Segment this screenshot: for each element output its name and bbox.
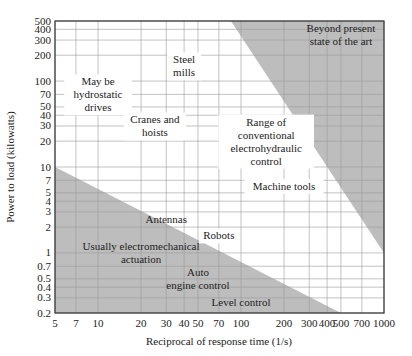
x-tick-label: 70 [213,317,225,329]
y-tick-label: 0.2 [37,307,51,319]
robots-label: Robots [203,229,234,241]
x-tick-label: 200 [276,317,293,329]
x-tick-label: 500 [333,317,350,329]
machine-tools-label: Machine tools [253,180,316,192]
level-control-label: Level control [212,296,271,308]
x-tick-label: 40 [179,317,191,329]
y-tick-label: 10 [40,161,52,173]
y-axis-ticks: 0.20.30.40.50.71234571020304050701002003… [35,15,52,319]
y-tick-label: 100 [35,75,52,87]
y-tick-label: 0.3 [37,291,51,303]
x-tick-label: 10 [93,317,105,329]
y-axis-label: Power to load (kilowatts) [4,111,17,223]
y-tick-label: 0.5 [37,272,51,284]
y-tick-label: 1 [46,246,52,258]
steel-mills-label: Steelmills [173,53,195,78]
beyond-state-of-art-label: Beyond presentstate of the art [307,22,376,47]
y-tick-label: 2 [46,221,52,233]
y-tick-label: 3 [46,205,52,217]
chart: SteelmillsMay behydrostaticdrivesCranes … [0,0,412,356]
x-tick-label: 30 [161,317,173,329]
y-tick-label: 30 [40,119,52,131]
y-tick-label: 300 [35,34,52,46]
x-tick-label: 100 [233,317,250,329]
y-tick-label: 0.7 [37,260,51,272]
y-tick-label: 200 [35,49,52,61]
x-axis-ticks: 571020304050701002003004005007001000 [52,317,395,329]
x-tick-label: 700 [354,317,371,329]
y-tick-label: 70 [40,88,52,100]
x-tick-label: 20 [136,317,148,329]
y-tick-label: 7 [46,174,52,186]
x-tick-label: 50 [192,317,204,329]
y-tick-label: 20 [40,135,52,147]
x-tick-label: 1000 [373,317,396,329]
x-tick-label: 5 [52,317,58,329]
y-tick-label: 500 [35,15,52,27]
x-tick-label: 7 [73,317,79,329]
x-axis-label: Reciprocal of response time (1/s) [146,335,292,348]
y-tick-label: 50 [40,100,52,112]
x-tick-label: 300 [301,317,318,329]
antennas-label: Antennas [145,213,187,225]
y-tick-label: 5 [46,186,52,198]
